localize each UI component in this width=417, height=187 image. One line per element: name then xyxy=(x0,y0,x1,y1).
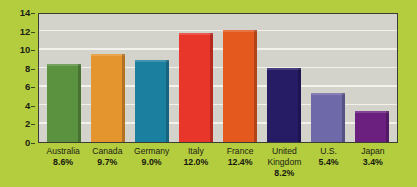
bars-container xyxy=(39,14,397,142)
bar-slot xyxy=(86,14,130,142)
x-axis-label-group: Japan3.4% xyxy=(351,146,395,187)
bar[interactable] xyxy=(311,93,345,142)
bar-slot xyxy=(306,14,350,142)
bar-value-label: 3.4% xyxy=(351,157,395,168)
bar-slot xyxy=(350,14,394,142)
y-axis-tick-label: 2 xyxy=(25,118,30,130)
bar[interactable] xyxy=(91,54,125,142)
y-axis-tick-mark xyxy=(31,69,35,70)
x-axis-category-label: Canada xyxy=(85,146,129,157)
bar-slot xyxy=(174,14,218,142)
x-axis-category-label: United Kingdom xyxy=(262,146,306,167)
bar-slot xyxy=(218,14,262,142)
x-axis-category-label: U.S. xyxy=(307,146,351,157)
y-axis-tick-mark xyxy=(31,87,35,88)
bar-value-label: 12.4% xyxy=(218,157,262,168)
bar[interactable] xyxy=(267,68,301,142)
y-axis-tick-mark xyxy=(31,143,35,144)
x-axis-label-group: United Kingdom8.2% xyxy=(262,146,306,187)
x-axis-category-label: Japan xyxy=(351,146,395,157)
x-axis-label-group: France12.4% xyxy=(218,146,262,187)
bar-slot xyxy=(262,14,306,142)
x-axis-category-label: Australia xyxy=(41,146,85,157)
x-axis-label-group: Australia8.6% xyxy=(41,146,85,187)
x-axis-category-label: France xyxy=(218,146,262,157)
bar-value-label: 8.6% xyxy=(41,157,85,168)
x-axis-label-group: U.S.5.4% xyxy=(307,146,351,187)
x-axis-label-group: Italy12.0% xyxy=(174,146,218,187)
y-axis-tick-mark xyxy=(31,32,35,33)
plot-area xyxy=(38,13,398,143)
bar[interactable] xyxy=(223,30,257,142)
y-axis-tick-label: 14 xyxy=(20,7,30,19)
y-axis-tick-mark xyxy=(31,50,35,51)
y-axis: 02468101214 xyxy=(0,8,38,148)
bar-value-label: 12.0% xyxy=(174,157,218,168)
bar[interactable] xyxy=(47,64,81,142)
bar-value-label: 5.4% xyxy=(307,157,351,168)
y-axis-tick-mark xyxy=(31,124,35,125)
y-axis-tick-label: 8 xyxy=(25,63,30,75)
bar-value-label: 9.7% xyxy=(85,157,129,168)
y-axis-tick-label: 12 xyxy=(20,26,30,38)
bar[interactable] xyxy=(135,60,169,142)
y-axis-tick-mark xyxy=(31,13,35,14)
bar[interactable] xyxy=(355,111,389,142)
x-axis-category-label: Germany xyxy=(130,146,174,157)
x-axis-label-group: Canada9.7% xyxy=(85,146,129,187)
bar-slot xyxy=(42,14,86,142)
bar-value-label: 8.2% xyxy=(262,168,306,179)
bar-slot xyxy=(130,14,174,142)
x-axis-label-group: Germany9.0% xyxy=(130,146,174,187)
x-axis-labels: Australia8.6%Canada9.7%Germany9.0%Italy1… xyxy=(38,146,398,187)
x-axis-category-label: Italy xyxy=(174,146,218,157)
y-axis-tick-mark xyxy=(31,106,35,107)
y-axis-tick-label: 6 xyxy=(25,81,30,93)
bar-chart: 02468101214 Australia8.6%Canada9.7%Germa… xyxy=(0,0,417,187)
y-axis-tick-label: 10 xyxy=(20,44,30,56)
y-axis-tick-label: 0 xyxy=(25,137,30,149)
y-axis-tick-label: 4 xyxy=(25,100,30,112)
bar[interactable] xyxy=(179,33,213,142)
bar-value-label: 9.0% xyxy=(130,157,174,168)
